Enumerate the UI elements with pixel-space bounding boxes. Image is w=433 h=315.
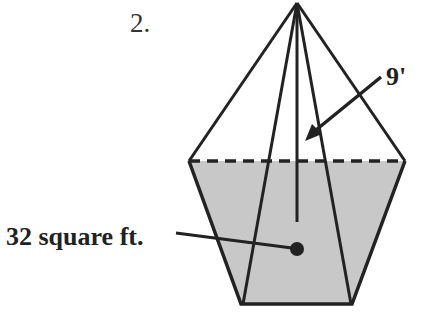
pyramid-figure	[0, 0, 433, 315]
problem-number: 2.	[130, 8, 150, 39]
height-arrow-line	[316, 77, 381, 130]
base-center-dot	[290, 242, 304, 256]
pyramid-diagram: 2. 9' 32 square ft.	[0, 0, 433, 315]
base-area-label: 32 square ft.	[6, 222, 143, 252]
slant-height-label: 9'	[386, 62, 406, 92]
lateral-edge-left	[189, 3, 297, 161]
